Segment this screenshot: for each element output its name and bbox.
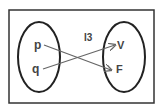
mapping-diagram: p q V F I3	[0, 0, 160, 111]
element-p: p	[34, 38, 41, 52]
element-q: q	[32, 62, 39, 76]
element-f: F	[116, 63, 123, 75]
mapping-label: I3	[84, 32, 93, 43]
element-v: V	[117, 39, 125, 51]
